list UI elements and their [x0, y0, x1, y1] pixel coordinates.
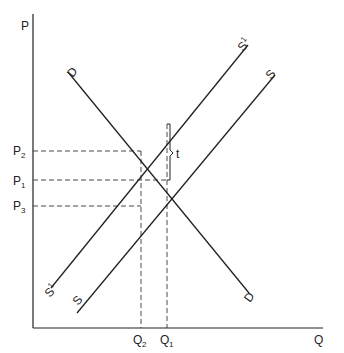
- tax-label: t: [176, 147, 180, 161]
- demand-curve: [68, 72, 249, 293]
- svg-text:2: 2: [21, 151, 26, 160]
- supply-taxed-label-end: S 1: [234, 34, 254, 54]
- price-label-p2: P 2: [13, 144, 26, 160]
- supply-taxed-label-start: S 1: [41, 280, 61, 300]
- price-label-p1: P 1: [13, 174, 26, 190]
- svg-text:P: P: [13, 199, 21, 213]
- supply-label-end: S: [263, 67, 279, 82]
- tax-bracket: [167, 124, 173, 180]
- svg-text:P: P: [13, 144, 21, 158]
- svg-text:Q: Q: [160, 333, 169, 347]
- supply-curve: [77, 75, 275, 313]
- svg-text:3: 3: [21, 206, 26, 215]
- price-label-p3: P 3: [13, 199, 26, 215]
- svg-text:P: P: [13, 174, 21, 188]
- quantity-label-q1: Q 1: [160, 333, 174, 349]
- y-axis-label: P: [21, 19, 29, 33]
- supply-demand-tax-diagram: P Q t D D S S S 1 S 1 P 2 P 1 P 3 Q: [0, 0, 344, 353]
- demand-label-start: D: [64, 64, 81, 79]
- svg-text:1: 1: [169, 340, 174, 349]
- demand-label-end: D: [241, 289, 258, 304]
- svg-text:2: 2: [142, 340, 147, 349]
- x-axis-label: Q: [314, 333, 323, 347]
- svg-text:Q: Q: [133, 333, 142, 347]
- supply-taxed-curve: [51, 45, 248, 288]
- svg-text:1: 1: [21, 181, 26, 190]
- quantity-label-q2: Q 2: [133, 333, 147, 349]
